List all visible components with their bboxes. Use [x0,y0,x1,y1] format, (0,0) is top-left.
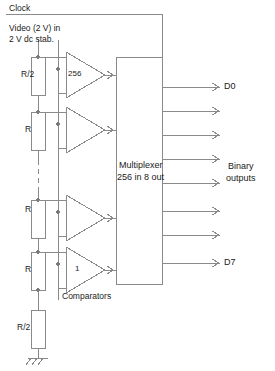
resistor-r2-bottom [31,310,45,348]
video-input-label: Video (2 V) in [9,23,60,34]
comparator-1-label: 1 [75,263,79,274]
multiplexer-label-line2: 256 in 8 out [117,172,164,183]
resistor-label-r-3: R [25,264,31,275]
ground-symbol [26,358,48,365]
comparator-256-label: 256 [68,68,81,79]
resistor-r-3 [31,252,45,290]
multiplexer-label-line1: Multiplexer [119,160,163,171]
ladder-dashed-continuation [38,160,58,192]
diagram-schematic [0,0,275,371]
comparator-3 [38,195,116,241]
output-label-d0: D0 [224,81,236,92]
resistor-label-r2-top: R/2 [21,69,34,80]
dc-stab-label: 2 V dc stab. [9,34,54,45]
resistor-label-r-2: R [25,204,31,215]
resistor-label-r2-bottom: R/2 [17,322,30,333]
adc-block-diagram: Clock Video (2 V) in 2 V dc stab. R/2 R … [0,0,275,371]
resistor-label-r-1: R [25,124,31,135]
output-label-d7: D7 [224,257,236,268]
comparator-2 [38,107,116,153]
binary-outputs-label-line1: Binary [228,161,254,172]
clock-label: Clock [9,3,30,14]
comparators-group-label: Comparators [62,291,111,302]
resistor-r-2 [31,200,45,238]
resistor-r-1 [31,112,45,150]
binary-outputs-label-line2: outputs [226,173,256,184]
output-lines [162,83,220,267]
